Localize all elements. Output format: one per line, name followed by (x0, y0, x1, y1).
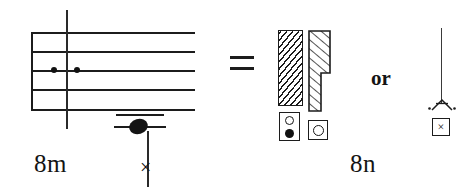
equals-sign: = (230, 56, 256, 76)
or-label: or (371, 66, 391, 91)
ledger-line-upper (116, 114, 164, 116)
staff-dot-left (51, 67, 57, 73)
staff-line-1 (31, 32, 195, 34)
caption-8m: 8m (34, 150, 67, 178)
hollow-circle-icon (313, 125, 324, 136)
boxed-x-symbol: × (432, 118, 450, 136)
staff-line-4 (31, 89, 195, 91)
stepped-bar-shape (308, 30, 332, 112)
equals-bar-top (230, 56, 254, 59)
hatched-bar-stepped (308, 30, 332, 112)
alternative-stem (441, 28, 442, 103)
symbol-box-one-circle (308, 120, 328, 140)
staff-barline (66, 10, 68, 129)
staff-dot-right (74, 67, 80, 73)
symbol-box-two-circles (279, 112, 300, 141)
hollow-circle-icon (285, 116, 294, 125)
staff-line-2 (31, 51, 195, 53)
alternative-symbol-group: × (420, 28, 464, 143)
arrowhead-with-dots-icon (428, 98, 456, 112)
boxed-x-glyph: × (438, 121, 445, 133)
low-note-group: × (110, 105, 200, 187)
hatched-bar-full (278, 30, 303, 106)
equals-bar-bottom (230, 67, 254, 70)
filled-circle-icon (285, 129, 294, 138)
notation-figure: × 8m = or (0, 0, 473, 187)
caption-8n: 8n (350, 150, 376, 178)
stem-x-mark: × (140, 157, 151, 177)
